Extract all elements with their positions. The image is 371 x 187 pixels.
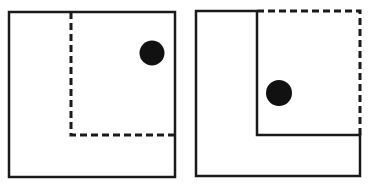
left-dashed-quarter-boundary (71, 12, 175, 135)
right-dashed-quarter-boundary (257, 11, 360, 135)
right-panel (196, 11, 360, 176)
right-dot (266, 80, 292, 106)
left-outer-square (9, 12, 175, 177)
left-dot (140, 41, 165, 66)
diagram-canvas (0, 0, 371, 187)
left-panel (9, 12, 175, 177)
